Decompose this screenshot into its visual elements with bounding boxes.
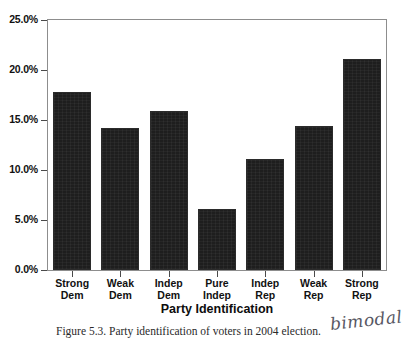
bar-series bbox=[48, 20, 386, 270]
y-axis-tick-mark bbox=[41, 20, 47, 21]
x-axis-tick-label: WeakRep bbox=[289, 278, 337, 301]
x-axis-tick-label: IndepDem bbox=[145, 278, 193, 301]
figure-container: 0.0%5.0%10.0%15.0%20.0%25.0% StrongDemWe… bbox=[0, 0, 412, 348]
x-label-line-2: Dem bbox=[145, 290, 193, 302]
figure-caption: Figure 5.3. Party identification of vote… bbox=[56, 325, 336, 337]
x-label-line-1: Indep bbox=[155, 277, 183, 289]
y-axis-tick-mark bbox=[41, 170, 47, 171]
y-axis-tick-mark bbox=[41, 70, 47, 71]
x-label-line-2: Rep bbox=[338, 290, 386, 302]
bar bbox=[343, 59, 381, 270]
x-axis-tick-label: WeakDem bbox=[96, 278, 144, 301]
y-axis-tick-label: 20.0% bbox=[9, 63, 38, 75]
y-axis-tick-mark bbox=[41, 270, 47, 271]
y-axis-tick-label: 25.0% bbox=[9, 13, 38, 25]
x-label-line-1: Indep bbox=[251, 277, 279, 289]
y-axis-tick-label: 15.0% bbox=[9, 113, 38, 125]
bar bbox=[198, 209, 236, 270]
y-axis-tick-label: 0.0% bbox=[15, 263, 38, 275]
y-axis-tick-mark bbox=[41, 220, 47, 221]
x-label-line-1: Strong bbox=[55, 277, 89, 289]
bar bbox=[295, 126, 333, 270]
x-label-line-2: Rep bbox=[289, 290, 337, 302]
x-axis-tick-label: StrongDem bbox=[48, 278, 96, 301]
y-axis-tick-label: 5.0% bbox=[15, 213, 38, 225]
bar bbox=[53, 92, 91, 270]
x-label-line-1: Weak bbox=[300, 277, 327, 289]
x-label-line-2: Dem bbox=[48, 290, 96, 302]
x-axis-tick-label: StrongRep bbox=[338, 278, 386, 301]
y-axis-tick-mark bbox=[41, 120, 47, 121]
x-label-line-2: Indep bbox=[193, 290, 241, 302]
x-label-line-2: Rep bbox=[241, 290, 289, 302]
x-label-line-2: Dem bbox=[96, 290, 144, 302]
bar bbox=[101, 128, 139, 270]
bar bbox=[150, 111, 188, 270]
y-axis-tick-label: 10.0% bbox=[9, 163, 38, 175]
bar bbox=[246, 159, 284, 270]
x-axis-tick-label: IndepRep bbox=[241, 278, 289, 301]
x-axis-tick-label: PureIndep bbox=[193, 278, 241, 301]
x-label-line-1: Weak bbox=[107, 277, 134, 289]
x-label-line-1: Pure bbox=[205, 277, 228, 289]
x-label-line-1: Strong bbox=[345, 277, 379, 289]
